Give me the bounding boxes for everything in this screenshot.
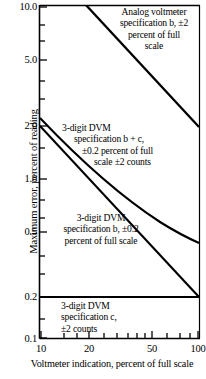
annotation-line: scale: [106, 40, 202, 51]
dvm-b-annotation: 3-digit DVM specification b, ±0.2 percen…: [40, 212, 162, 246]
x-axis-title: Voltmeter indication, percent of full sc…: [18, 358, 206, 369]
annotation-line: ±2 counts: [61, 323, 171, 334]
y-axis-ticks: [40, 7, 48, 338]
annotation-line: scale ±2 counts: [62, 156, 192, 167]
analog-voltmeter-annotation: Analog voltmeter specification b, ±2 per…: [106, 6, 202, 52]
annotation-line: specification b + c,: [62, 133, 192, 144]
annotation-line: percent of full scale: [40, 235, 162, 246]
annotation-line: 3-digit DVM: [40, 212, 162, 223]
annotation-line: 3-digit DVM: [61, 300, 171, 311]
chart-figure: Maximum error, percent of reading 10.0 5…: [0, 0, 206, 379]
annotation-line: 3-digit DVM: [62, 122, 192, 133]
annotation-line: specification b, ±0.2: [40, 223, 162, 234]
annotation-line: specification c,: [61, 311, 171, 322]
axis-spines: [40, 5, 201, 339]
annotation-line: percent of full: [106, 29, 202, 40]
annotation-line: Analog voltmeter: [106, 6, 202, 17]
annotation-line: specification b, ±2: [106, 17, 202, 28]
dvm-c-annotation: 3-digit DVM specification c, ±2 counts: [61, 300, 171, 334]
dvm-b-plus-c-annotation: 3-digit DVM specification b + c, ±0.2 pe…: [62, 122, 192, 168]
annotation-line: ±0.2 percent of full: [62, 145, 192, 156]
